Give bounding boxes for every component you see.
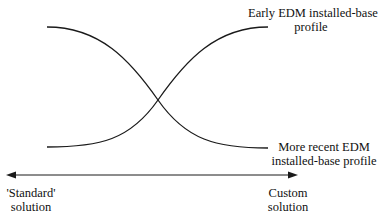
custom-solution-label: Custom solution — [258, 186, 318, 214]
right-arrowhead-icon — [288, 172, 298, 179]
rising-curve — [47, 27, 268, 147]
left-arrowhead-icon — [6, 172, 16, 179]
recent-edm-label: More recent EDM installed-base profile — [270, 140, 378, 168]
falling-curve — [47, 27, 268, 148]
standard-solution-label: 'Standard' solution — [0, 186, 62, 214]
early-edm-label: Early EDM installed-base profile — [248, 6, 374, 34]
